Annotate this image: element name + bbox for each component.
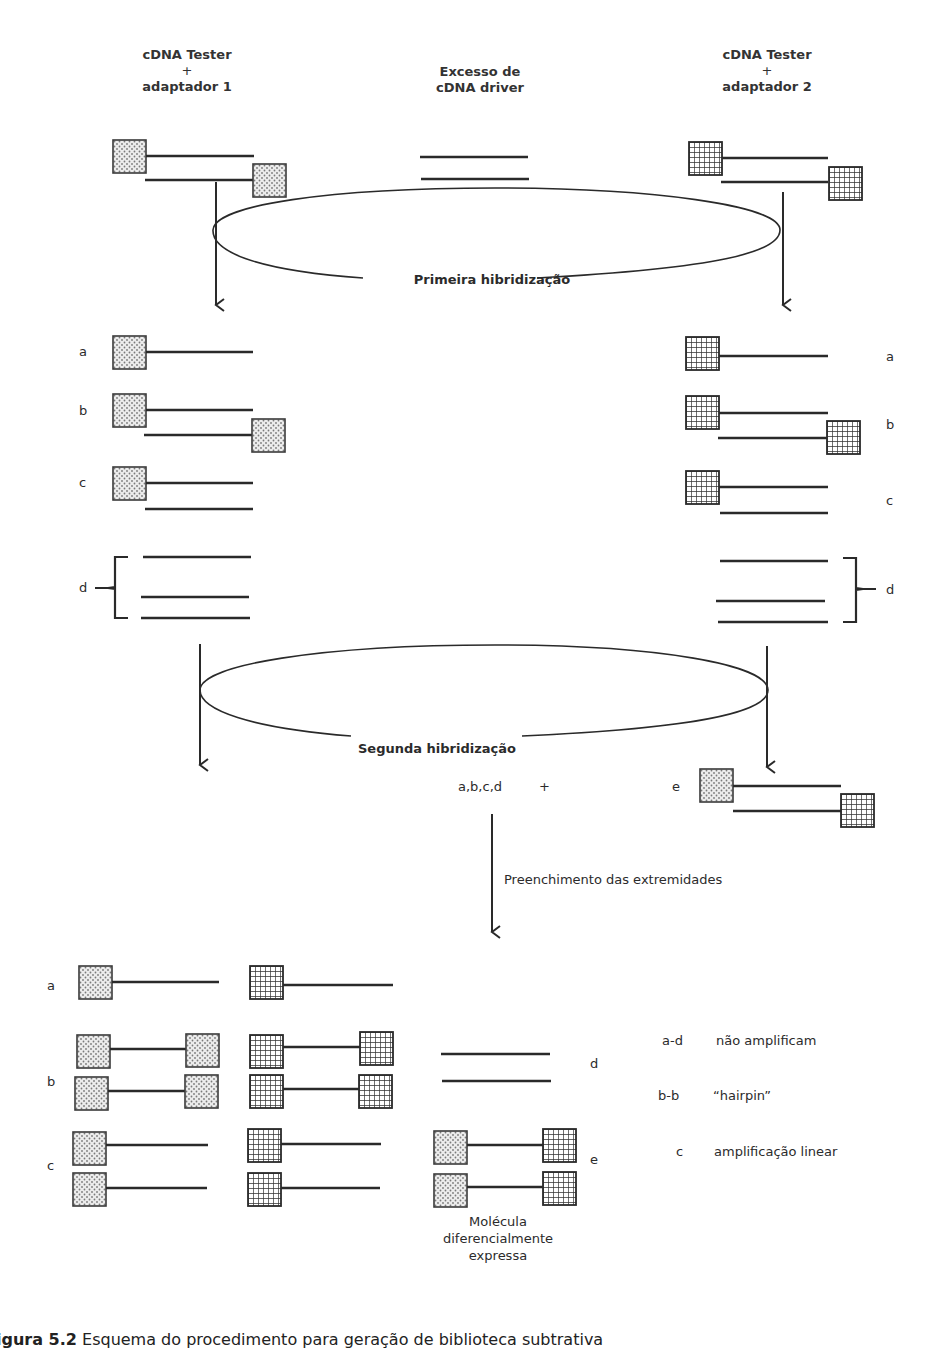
first-hybridization-label: Primeira hibridização xyxy=(414,272,570,288)
e-molecule-duplex xyxy=(700,769,874,827)
figure-number: igura 5.2 xyxy=(0,1330,77,1349)
legend-key-a-d: a-d xyxy=(662,1033,683,1049)
plus-sign: + xyxy=(539,779,550,795)
legend-value-a-d: não amplificam xyxy=(716,1033,816,1049)
header-tester-adapter2: cDNA Tester + adaptador 2 xyxy=(722,47,811,95)
legend-key-b-b: b-b xyxy=(658,1088,679,1104)
second-hybridization-label: Segunda hibridização xyxy=(358,741,516,757)
brace-left xyxy=(108,557,128,618)
final-products-adapter2 xyxy=(248,966,393,1206)
final-label-c: c xyxy=(47,1158,54,1174)
legend-value-c: amplificação linear xyxy=(714,1144,837,1160)
figure-caption: igura 5.2 Esquema do procedimento para g… xyxy=(0,1330,603,1349)
first-products-left xyxy=(95,336,285,618)
final-label-e: e xyxy=(590,1152,598,1168)
header-tester-adapter1: cDNA Tester + adaptador 1 xyxy=(142,47,231,95)
final-label-a: a xyxy=(47,978,55,994)
fill-in-label: Preenchimento das extremidades xyxy=(504,872,722,888)
first-products-right xyxy=(686,337,876,622)
figure-caption-text: Esquema do procedimento para geração de … xyxy=(82,1330,603,1349)
first-hybridization-ellipse xyxy=(213,188,780,278)
label-right-a: a xyxy=(886,349,894,365)
label-right-d: d xyxy=(886,582,894,598)
label-right-b: b xyxy=(886,417,894,433)
label-left-d: d xyxy=(79,580,87,596)
second-hybridization-ellipse xyxy=(200,645,768,736)
label-right-c: c xyxy=(886,493,893,509)
final-e-molecules xyxy=(434,1129,576,1207)
e-label-second: e xyxy=(672,779,680,795)
final-label-d: d xyxy=(590,1056,598,1072)
legend-value-b-b: “hairpin” xyxy=(713,1088,771,1104)
label-left-b: b xyxy=(79,403,87,419)
final-label-b: b xyxy=(47,1074,55,1090)
driver-cdna-strands xyxy=(420,157,529,179)
brace-right xyxy=(843,558,863,622)
tester-adapter2-duplex xyxy=(689,142,862,200)
final-products-adapter1 xyxy=(73,966,219,1206)
legend-key-c: c xyxy=(676,1144,683,1160)
final-d-strands xyxy=(441,1054,551,1081)
header-driver: Excesso de cDNA driver xyxy=(436,64,524,96)
combined-set-label: a,b,c,d xyxy=(458,779,502,795)
tester-adapter1-duplex xyxy=(113,140,286,197)
molecule-caption: Molécula diferencialmente expressa xyxy=(443,1213,553,1264)
label-left-c: c xyxy=(79,475,86,491)
label-left-a: a xyxy=(79,344,87,360)
